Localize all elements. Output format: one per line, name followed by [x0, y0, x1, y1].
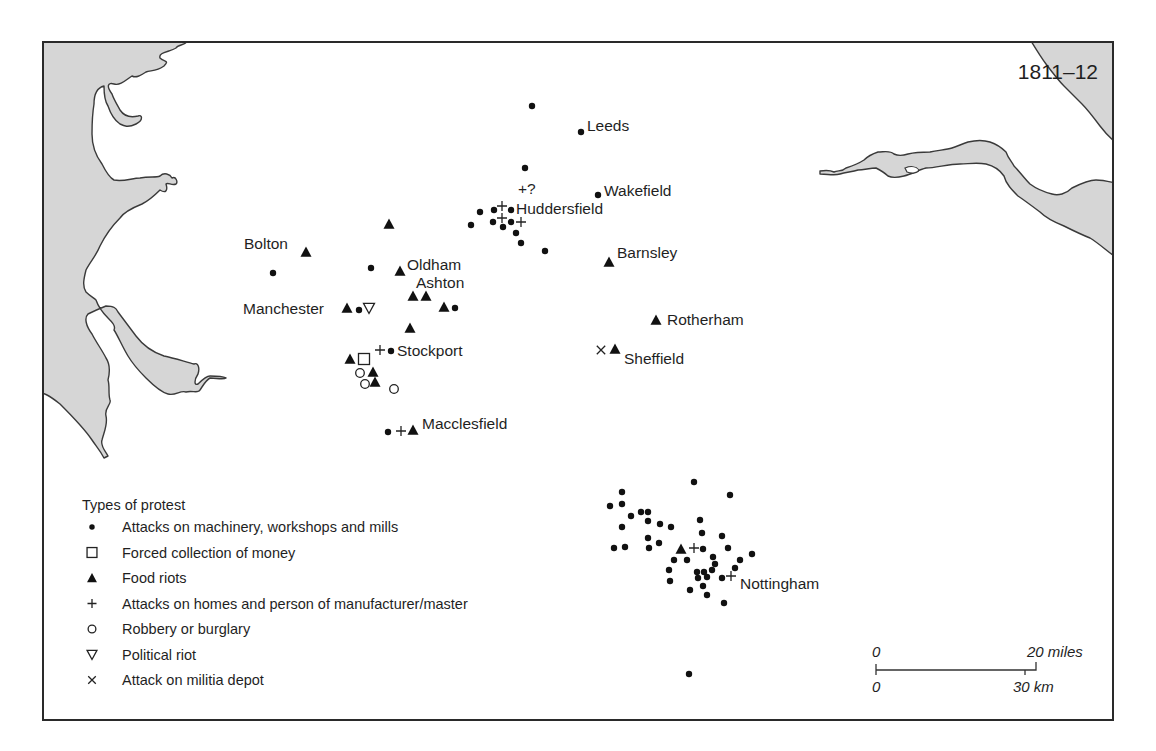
filled-circle-icon — [500, 224, 506, 230]
open-square-icon — [87, 548, 97, 558]
plus-icon — [726, 571, 736, 581]
filled-triangle-icon — [384, 219, 395, 229]
place-label-ashton: Ashton — [416, 274, 464, 291]
legend-item: Forced collection of money — [87, 545, 296, 561]
protest-markers — [270, 103, 755, 677]
legend-item-label: Forced collection of money — [122, 545, 296, 561]
filled-triangle-icon — [676, 544, 687, 554]
filled-circle-icon — [704, 574, 710, 580]
filled-circle-icon — [89, 524, 94, 529]
filled-triangle-icon — [408, 425, 419, 435]
legend-item-label: Political riot — [122, 647, 196, 663]
filled-circle-icon — [719, 575, 725, 581]
filled-circle-icon — [700, 546, 706, 552]
filled-circle-icon — [737, 557, 743, 563]
filled-circle-icon — [607, 503, 613, 509]
legend-items: Attacks on machinery, workshops and mill… — [87, 519, 468, 688]
filled-circle-icon — [508, 219, 514, 225]
legend: Types of protest Attacks on machinery, w… — [82, 497, 468, 688]
place-label-nottingham: Nottingham — [740, 575, 819, 592]
place-label-manchester: Manchester — [243, 300, 324, 317]
filled-circle-icon — [710, 554, 716, 560]
plus-icon — [689, 543, 699, 553]
open-circle-icon — [361, 380, 370, 389]
humber-estuary — [820, 141, 1120, 261]
legend-item: Robbery or burglary — [88, 621, 251, 637]
uncertain-marker-annotation: +? — [518, 180, 536, 197]
x-cross-icon — [88, 676, 96, 684]
irish-sea — [30, 30, 226, 458]
place-label-bolton: Bolton — [244, 235, 288, 252]
filled-triangle-icon — [395, 266, 406, 276]
open-circle-icon — [390, 385, 399, 394]
open-square-icon — [359, 354, 370, 365]
filled-triangle-icon — [405, 323, 416, 333]
filled-circle-icon — [656, 540, 662, 546]
scale-miles-start: 0 — [872, 643, 881, 660]
annotations: +? — [518, 180, 536, 197]
protest-map: 1811–12 LeedsWakefieldHuddersfieldBolton… — [0, 0, 1156, 751]
humber-island — [905, 167, 919, 173]
filled-circle-icon — [657, 521, 663, 527]
filled-circle-icon — [687, 587, 693, 593]
filled-circle-icon — [542, 248, 548, 254]
filled-circle-icon — [645, 509, 651, 515]
filled-circle-icon — [732, 565, 738, 571]
filled-circle-icon — [628, 513, 634, 519]
filled-triangle-icon — [370, 377, 381, 387]
filled-circle-icon — [725, 545, 731, 551]
filled-circle-icon — [667, 578, 673, 584]
legend-item-label: Food riots — [122, 570, 186, 586]
filled-circle-icon — [468, 222, 474, 228]
place-label-huddersfield: Huddersfield — [516, 200, 603, 217]
filled-circle-icon — [721, 600, 727, 606]
filled-triangle-icon — [368, 367, 379, 377]
north-sea — [1028, 30, 1120, 146]
filled-circle-icon — [704, 592, 710, 598]
filled-circle-icon — [388, 348, 394, 354]
filled-circle-icon — [490, 219, 496, 225]
filled-circle-icon — [709, 567, 715, 573]
scale-line — [876, 662, 1036, 675]
filled-circle-icon — [595, 192, 601, 198]
filled-circle-icon — [684, 557, 690, 563]
filled-triangle-icon — [87, 573, 97, 582]
open-circle-icon — [356, 369, 365, 378]
filled-circle-icon — [638, 509, 644, 515]
place-label-macclesfield: Macclesfield — [422, 415, 507, 432]
filled-triangle-icon — [408, 291, 419, 301]
filled-circle-icon — [611, 545, 617, 551]
open-down-triangle-icon — [87, 650, 97, 659]
filled-circle-icon — [666, 567, 672, 573]
plus-icon — [497, 201, 507, 211]
filled-circle-icon — [695, 575, 701, 581]
filled-circle-icon — [699, 530, 705, 536]
legend-item-label: Robbery or burglary — [122, 621, 251, 637]
place-label-barnsley: Barnsley — [617, 244, 678, 261]
scale-bar: 0 20 miles 0 30 km — [872, 643, 1083, 695]
filled-circle-icon — [700, 583, 706, 589]
filled-triangle-icon — [610, 344, 621, 354]
filled-circle-icon — [671, 557, 677, 563]
filled-circle-icon — [719, 533, 725, 539]
filled-circle-icon — [529, 103, 535, 109]
filled-circle-icon — [385, 429, 391, 435]
filled-circle-icon — [368, 265, 374, 271]
filled-circle-icon — [712, 561, 718, 567]
legend-item-label: Attacks on machinery, workshops and mill… — [122, 519, 398, 535]
filled-circle-icon — [477, 209, 483, 215]
filled-circle-icon — [513, 230, 519, 236]
place-label-wakefield: Wakefield — [604, 182, 671, 199]
plus-icon — [396, 426, 406, 436]
filled-circle-icon — [622, 544, 628, 550]
place-label-sheffield: Sheffield — [624, 350, 684, 367]
scale-miles-end: 20 miles — [1026, 643, 1083, 660]
open-down-triangle-icon — [364, 303, 375, 313]
filled-circle-icon — [619, 524, 625, 530]
legend-item: Attacks on machinery, workshops and mill… — [89, 519, 398, 535]
filled-circle-icon — [619, 489, 625, 495]
scale-km-end: 30 km — [1013, 678, 1054, 695]
filled-circle-icon — [645, 535, 651, 541]
filled-triangle-icon — [421, 291, 432, 301]
filled-triangle-icon — [345, 354, 356, 364]
